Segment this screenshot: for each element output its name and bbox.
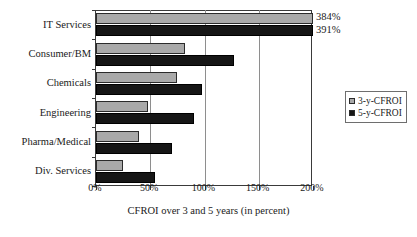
bar-5y — [96, 55, 234, 66]
x-tick-label-100: 100% — [192, 182, 215, 193]
value-label-3y: 384% — [316, 11, 341, 22]
legend: 3-y-CFROI 5-y-CFROI — [345, 91, 407, 123]
plot-area — [95, 10, 312, 186]
bar-group — [96, 43, 312, 66]
legend-item-5y: 5-y-CFROI — [349, 107, 402, 119]
bar-3y — [96, 72, 177, 83]
value-label-5y: 391% — [316, 24, 341, 35]
bar-5y — [96, 25, 313, 36]
bar-5y — [96, 143, 172, 154]
category-label: Pharma/Medical — [22, 136, 91, 147]
bar-5y — [96, 84, 202, 95]
bar-group — [96, 13, 312, 36]
x-tick-label-200: 200% — [300, 182, 323, 193]
x-tick-label-0: 0% — [88, 182, 101, 193]
legend-swatch-3y-icon — [349, 98, 355, 104]
category-tick — [92, 127, 96, 128]
cfroi-bar-chart: IT ServicesConsumer/BMChemicalsEngineeri… — [0, 0, 417, 237]
category-label: Chemicals — [47, 77, 91, 88]
category-tick — [92, 69, 96, 70]
legend-swatch-5y-icon — [349, 110, 355, 116]
bar-group — [96, 72, 312, 95]
category-label: Div. Services — [35, 165, 91, 176]
legend-label-5y: 5-y-CFROI — [358, 107, 402, 119]
category-label: IT Services — [43, 19, 91, 30]
bar-3y — [96, 13, 313, 24]
category-tick — [92, 98, 96, 99]
x-axis-title: CFROI over 3 and 5 years (in percent) — [0, 205, 417, 216]
x-tick-label-50: 50% — [140, 182, 158, 193]
bar-group — [96, 160, 312, 183]
category-label: Engineering — [40, 107, 91, 118]
bar-group — [96, 131, 312, 154]
category-label: Consumer/BM — [29, 48, 91, 59]
legend-item-3y: 3-y-CFROI — [349, 95, 402, 107]
bar-3y — [96, 160, 123, 171]
bar-3y — [96, 131, 139, 142]
bar-5y — [96, 113, 194, 124]
bar-rows — [96, 10, 312, 185]
category-tick — [92, 157, 96, 158]
bar-3y — [96, 101, 148, 112]
legend-label-3y: 3-y-CFROI — [358, 95, 402, 107]
x-tick-label-150: 150% — [246, 182, 269, 193]
bar-3y — [96, 43, 185, 54]
bar-group — [96, 101, 312, 124]
category-tick — [92, 39, 96, 40]
category-tick — [92, 10, 96, 11]
